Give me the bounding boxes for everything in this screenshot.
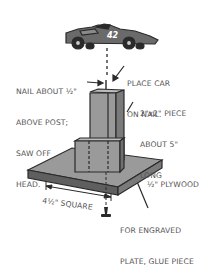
nail-label-line-1: NAIL ABOUT ½" xyxy=(16,87,77,97)
nail-label-line-4: HEAD. xyxy=(16,180,77,190)
screw-icon xyxy=(101,207,111,217)
plate-label-line-2: PLATE, GLUE PIECE xyxy=(120,257,196,267)
diagram-stage: 42 xyxy=(0,0,216,267)
post-label-line-1: 2"x2" PIECE xyxy=(140,109,186,119)
plate-block-2x3 xyxy=(75,138,124,172)
nail-label-line-2: ABOVE POST; xyxy=(16,118,77,128)
nail-label-line-3: SAW OFF xyxy=(16,149,77,159)
plate-label-line-1: FOR ENGRAVED xyxy=(120,226,196,236)
svg-text:42: 42 xyxy=(106,31,119,40)
nail-label: NAIL ABOUT ½" ABOVE POST; SAW OFF HEAD. xyxy=(16,66,77,212)
plywood-label: ½" PLYWOOD xyxy=(147,180,199,190)
post-label-line-2: ABOUT 5" xyxy=(140,140,186,150)
engraved-plate-label: FOR ENGRAVED PLATE, GLUE PIECE OF 2"x3" … xyxy=(120,205,196,267)
race-car-icon: 42 xyxy=(66,24,158,49)
